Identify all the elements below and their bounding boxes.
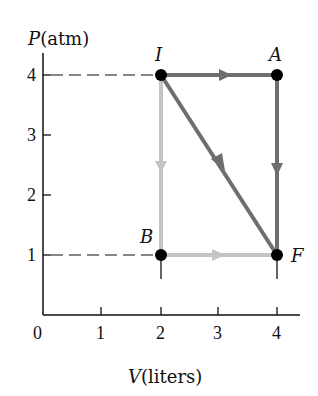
x-axis-title: V(liters) xyxy=(128,366,202,387)
x-tick-label-0: 0 xyxy=(33,323,42,343)
arrow-down-icon xyxy=(271,163,283,176)
point-F xyxy=(271,249,283,261)
label-B: B xyxy=(139,226,153,247)
y-ticks: 4 3 2 1 xyxy=(27,65,51,265)
drop-lines xyxy=(161,255,277,279)
y-tick-label-4: 4 xyxy=(27,65,36,85)
pv-diagram: 4 3 2 1 0 1 2 3 4 xyxy=(0,0,318,396)
label-I: I xyxy=(154,44,163,65)
arrow-right-icon xyxy=(219,69,232,81)
arrow-right-icon xyxy=(212,249,225,261)
point-I xyxy=(155,69,167,81)
y-tick-label-2: 2 xyxy=(27,185,36,205)
x-tick-label-1: 1 xyxy=(96,323,105,343)
path-IBF xyxy=(155,75,277,261)
x-ticks: 0 1 2 3 4 xyxy=(33,307,281,343)
y-tick-label-3: 3 xyxy=(27,125,36,145)
arrow-down-icon xyxy=(155,161,167,173)
path-IF xyxy=(161,75,277,255)
x-tick-label-2: 2 xyxy=(156,323,165,343)
y-tick-label-1: 1 xyxy=(27,245,36,265)
point-B xyxy=(155,249,167,261)
label-A: A xyxy=(267,44,282,65)
label-F: F xyxy=(290,245,305,266)
x-tick-label-4: 4 xyxy=(272,323,281,343)
point-A xyxy=(271,69,283,81)
x-tick-label-3: 3 xyxy=(213,323,222,343)
y-axis-title: P(atm) xyxy=(27,28,89,49)
